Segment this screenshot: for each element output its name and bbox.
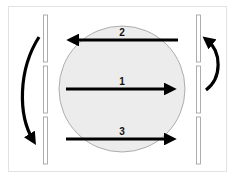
arrow-2-label: 2 <box>119 27 125 38</box>
curved-arrow-down-icon <box>22 37 39 140</box>
left-bar-segment-bottom <box>44 117 48 164</box>
left-bar-segment-top <box>44 15 48 62</box>
arrow-3-label: 3 <box>119 126 125 137</box>
right-bar <box>197 15 201 164</box>
right-bar-segment-bottom <box>197 117 201 164</box>
left-bar-segment-middle <box>44 66 48 113</box>
arrow-1-label: 1 <box>119 76 125 87</box>
curved-arrow-up-icon <box>206 40 218 90</box>
left-bar <box>44 15 48 164</box>
right-bar-segment-middle <box>197 66 201 113</box>
rotation-diagram: 2 1 3 <box>0 0 236 180</box>
right-bar-segment-top <box>197 15 201 62</box>
